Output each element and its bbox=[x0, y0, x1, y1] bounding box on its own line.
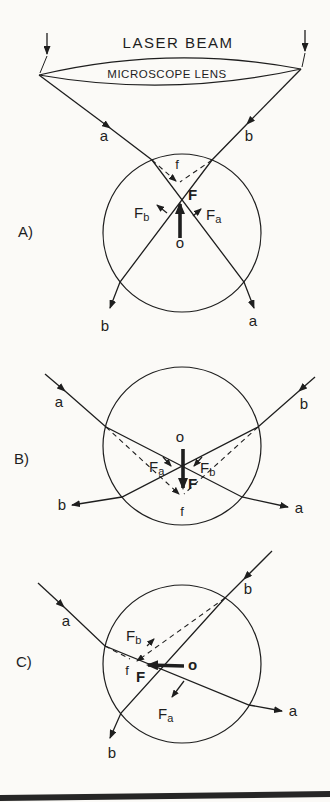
laser-beam-label: LASER BEAM bbox=[123, 34, 234, 51]
panel-c-focus-dashed-left bbox=[105, 646, 130, 659]
panel-c: C) a a b b f o F Fb Fa bbox=[16, 551, 298, 761]
panel-b-net-force-label: F bbox=[188, 475, 197, 492]
panel-c-ray-a-out-label: a bbox=[289, 702, 298, 719]
panel-c-label: C) bbox=[16, 653, 32, 670]
laser-arrow-right-tail bbox=[302, 53, 305, 67]
panel-a-force-a-label: Fa bbox=[206, 206, 222, 225]
panel-c-ray-b-out-label: b bbox=[108, 744, 116, 761]
panel-c-ray-a-in-label: a bbox=[62, 612, 71, 629]
laser-arrow-left-tail bbox=[40, 56, 47, 73]
panel-a-label: A) bbox=[18, 223, 33, 240]
panel-c-ray-a-incoming bbox=[38, 583, 64, 607]
panel-a-force-b-arrow bbox=[157, 205, 167, 213]
panel-c-focus-dashed-right bbox=[137, 598, 225, 661]
panel-a-focus-dashed-right bbox=[180, 160, 212, 182]
panel-c-ray-b-incoming bbox=[244, 551, 272, 579]
panel-b-ray-b-out-label: b bbox=[58, 496, 66, 513]
panel-c-force-a-label: Fa bbox=[158, 705, 174, 724]
panel-b-origin-label: o bbox=[176, 428, 184, 445]
panel-a-ray-a-bottom-label: a bbox=[249, 312, 258, 329]
panel-a-origin-label: o bbox=[176, 234, 184, 251]
laser-lens-assembly: LASER BEAM MICROSCOPE LENS bbox=[39, 30, 305, 85]
panel-a-ray-b-top-label: b bbox=[245, 127, 253, 144]
panel-a-ray-a-top-label: a bbox=[100, 127, 109, 144]
microscope-lens-label: MICROSCOPE LENS bbox=[107, 68, 226, 80]
panel-b-ray-a-incoming bbox=[45, 374, 65, 391]
panel-c-net-force-arrow bbox=[148, 665, 184, 666]
panel-b-ray-b-incoming bbox=[299, 377, 315, 391]
panel-b-focus-dashed-left bbox=[106, 427, 179, 494]
panel-b: B) a a b b f o F Fa Fb bbox=[14, 367, 315, 525]
panel-c-force-b-label: Fb bbox=[126, 627, 141, 646]
panel-a-bead-circle bbox=[103, 154, 261, 312]
panel-b-ray-b-top-label: b bbox=[300, 395, 308, 412]
panel-c-ray-b-in-label: b bbox=[244, 580, 252, 597]
panel-b-ray-b bbox=[72, 391, 299, 505]
panel-c-force-b-arrow bbox=[147, 639, 154, 646]
panel-c-focus-label: f bbox=[125, 663, 129, 678]
panel-b-ray-a-top-label: a bbox=[55, 393, 64, 410]
panel-b-focus-label: f bbox=[180, 504, 184, 519]
panel-a-focus-dashed-left bbox=[152, 160, 176, 181]
panel-b-force-a-label: Fa bbox=[149, 458, 165, 477]
panel-b-force-b-label: Fb bbox=[200, 459, 215, 478]
panel-a-force-a-arrow bbox=[193, 209, 201, 216]
panel-b-ray-a-out-label: a bbox=[295, 499, 304, 516]
panel-c-origin-label: o bbox=[188, 656, 197, 673]
panel-c-net-force-label: F bbox=[136, 668, 145, 685]
optical-trap-figure: LASER BEAM MICROSCOPE LENS A) a a b b f … bbox=[0, 0, 330, 802]
panel-b-label: B) bbox=[14, 450, 29, 467]
panel-a-ray-b-bottom-label: b bbox=[101, 317, 109, 334]
panel-a-focus-label: f bbox=[175, 157, 179, 172]
panel-a: A) a a b b f F o Fb Fa bbox=[18, 69, 301, 334]
bottom-scan-bar bbox=[0, 791, 330, 801]
panel-b-ray-a bbox=[65, 391, 288, 507]
panel-a-ray-a bbox=[110, 128, 254, 308]
panel-a-force-b-label: Fb bbox=[134, 204, 149, 223]
panel-c-force-a-arrow bbox=[172, 681, 184, 697]
panel-a-net-force-label: F bbox=[188, 186, 197, 203]
